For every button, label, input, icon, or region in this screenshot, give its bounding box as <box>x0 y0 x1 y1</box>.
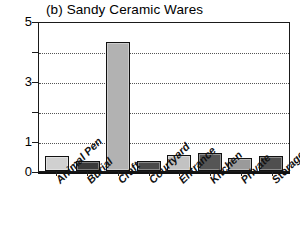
bar-series <box>39 23 289 171</box>
chart-figure: (b) Sandy Ceramic Wares 0135 Animal PenB… <box>0 0 300 240</box>
y-axis-label: 1 <box>2 135 32 148</box>
y-axis-tick <box>32 52 38 53</box>
y-axis-tick <box>32 112 38 113</box>
y-axis-tick <box>32 82 38 83</box>
y-axis-tick <box>32 22 38 23</box>
bar-slot <box>134 23 165 171</box>
y-axis-label: 3 <box>2 75 32 88</box>
y-axis-label: 0 <box>2 165 32 178</box>
bar-slot <box>256 23 287 171</box>
y-axis-label: 5 <box>2 15 32 28</box>
y-axis-line <box>38 22 39 173</box>
y-axis-tick <box>32 172 38 173</box>
bar-slot <box>103 23 134 171</box>
plot-area <box>38 22 290 172</box>
y-axis-tick <box>32 142 38 143</box>
chart-title: (b) Sandy Ceramic Wares <box>46 2 203 17</box>
bar-slot <box>225 23 256 171</box>
bar[interactable] <box>106 42 130 171</box>
bar-slot <box>42 23 73 171</box>
